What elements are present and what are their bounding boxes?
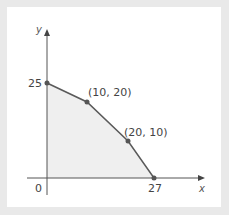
point-20-10-label: (20, 10) xyxy=(124,126,168,139)
point-10-20 xyxy=(85,100,90,105)
y-axis-label: y xyxy=(35,24,43,35)
x-axis-arrow-icon xyxy=(198,175,205,181)
origin-label: 0 xyxy=(35,182,42,195)
feasible-region-diagram: y x 0 25 27 (10, 20) (20, 10) xyxy=(0,0,229,215)
x-axis-label: x xyxy=(198,183,205,194)
point-20-10 xyxy=(126,139,131,144)
point-0-25 xyxy=(45,81,50,86)
x-intercept-label: 27 xyxy=(148,182,162,195)
point-10-20-label: (10, 20) xyxy=(88,86,132,99)
y-axis-arrow-icon xyxy=(44,29,50,36)
y-intercept-label: 25 xyxy=(28,77,42,90)
point-27-0 xyxy=(152,176,157,181)
